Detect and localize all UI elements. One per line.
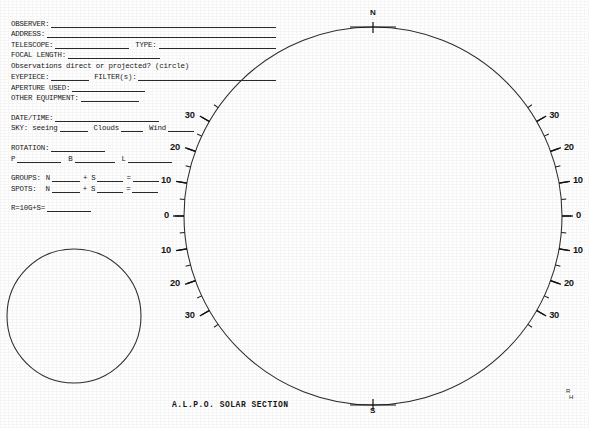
- latitude-scale-number: 20: [564, 142, 574, 152]
- latitude-tick-major: [559, 181, 570, 183]
- latitude-scale-number: 20: [564, 278, 574, 288]
- observation-form-sheet: OBSERVER: ADDRESS: TELESCOPE: TYPE: FOCA…: [0, 0, 589, 428]
- latitude-tick-major: [537, 116, 547, 122]
- corner-print-mark: R H: [566, 388, 573, 400]
- latitude-tick-minor: [214, 105, 218, 108]
- latitude-tick-major: [200, 116, 210, 122]
- solar-disk-outline: [184, 27, 562, 405]
- latitude-tick-minor: [556, 265, 561, 266]
- latitude-scale-number: 30: [549, 310, 559, 320]
- latitude-tick-minor: [214, 324, 218, 327]
- pole-south-label: S: [370, 406, 375, 415]
- latitude-tick-major: [185, 148, 195, 152]
- latitude-scale-number: 30: [549, 110, 559, 120]
- latitude-tick-minor: [544, 296, 549, 298]
- latitude-tick-group: [173, 105, 573, 328]
- latitude-scale-number: 0: [576, 210, 581, 220]
- latitude-tick-major: [551, 281, 561, 285]
- latitude-tick-minor: [186, 166, 191, 167]
- latitude-scale-number: 20: [170, 142, 180, 152]
- latitude-tick-minor: [186, 265, 191, 266]
- page-title: A.L.P.O. SOLAR SECTION: [172, 400, 289, 409]
- latitude-scale-number: 10: [161, 175, 171, 185]
- latitude-tick-major: [537, 311, 547, 317]
- latitude-scale-number: 0: [164, 210, 169, 220]
- latitude-tick-major: [176, 181, 187, 183]
- latitude-scale-number: 30: [185, 310, 195, 320]
- latitude-scale-number: 10: [161, 245, 171, 255]
- latitude-tick-minor: [197, 296, 202, 298]
- latitude-tick-major: [200, 311, 210, 317]
- latitude-tick-major: [551, 148, 561, 152]
- latitude-tick-minor: [197, 134, 202, 136]
- latitude-scale-number: 30: [185, 110, 195, 120]
- latitude-scale-number: 10: [573, 245, 583, 255]
- latitude-tick-major: [176, 249, 187, 251]
- auxiliary-circle-outline: [7, 249, 141, 383]
- latitude-tick-minor: [528, 105, 532, 108]
- latitude-scale-number: 10: [573, 175, 583, 185]
- latitude-tick-major: [185, 281, 195, 285]
- solar-disk-diagram: [0, 0, 589, 428]
- latitude-tick-minor: [556, 166, 561, 167]
- latitude-tick-minor: [528, 324, 532, 327]
- latitude-scale-number: 20: [170, 278, 180, 288]
- pole-north-label: N: [370, 8, 376, 17]
- latitude-tick-major: [559, 249, 570, 251]
- corner-mark-bottom: H: [569, 394, 573, 400]
- latitude-tick-minor: [544, 134, 549, 136]
